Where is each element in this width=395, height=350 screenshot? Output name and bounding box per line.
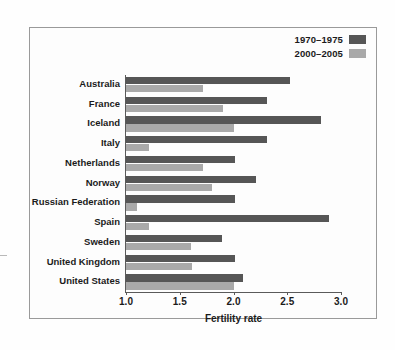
category-label: Netherlands bbox=[65, 156, 120, 170]
legend-item: 1970–1975 bbox=[295, 34, 366, 45]
x-tick-label: 2.0 bbox=[227, 296, 241, 307]
legend-swatch bbox=[349, 35, 366, 44]
bar-group: Spain bbox=[126, 213, 341, 233]
bar-group: France bbox=[126, 95, 341, 115]
x-axis-title: Fertility rate bbox=[205, 313, 262, 324]
bar-series2 bbox=[126, 184, 212, 191]
bar-series2 bbox=[126, 164, 203, 171]
bar-group: Norway bbox=[126, 174, 341, 194]
x-tick-mark bbox=[341, 292, 342, 295]
legend-label: 2000–2005 bbox=[295, 48, 343, 59]
bar-group: United States bbox=[126, 272, 341, 292]
x-tick-label: 3.0 bbox=[334, 296, 348, 307]
category-label: Italy bbox=[101, 136, 120, 150]
bar-series2 bbox=[126, 243, 191, 250]
category-label: Norway bbox=[86, 176, 120, 190]
legend-label: 1970–1975 bbox=[295, 34, 343, 45]
bar-series1 bbox=[126, 195, 235, 202]
bar-series2 bbox=[126, 105, 223, 112]
bar-series1 bbox=[126, 77, 290, 84]
bar-group: United Kingdom bbox=[126, 253, 341, 273]
x-tick-mark bbox=[126, 292, 127, 295]
bar-series1 bbox=[126, 235, 222, 242]
bar-group: Sweden bbox=[126, 233, 341, 253]
category-label: France bbox=[89, 97, 120, 111]
bar-series1 bbox=[126, 97, 267, 104]
x-tick-mark bbox=[234, 292, 235, 295]
legend-item: 2000–2005 bbox=[295, 48, 366, 59]
figure-canvas: 1970–19752000–2005 AustraliaFranceIcelan… bbox=[0, 0, 395, 350]
bar-group: Russian Federation bbox=[126, 193, 341, 213]
x-tick-label: 2.5 bbox=[280, 296, 294, 307]
category-label: Sweden bbox=[84, 235, 120, 249]
category-label: Spain bbox=[94, 215, 120, 229]
legend-swatch bbox=[349, 49, 366, 58]
x-tick-mark bbox=[180, 292, 181, 295]
chart-legend: 1970–19752000–2005 bbox=[295, 34, 366, 59]
bar-group: Iceland bbox=[126, 114, 341, 134]
page-edge-mark bbox=[0, 255, 7, 256]
bar-series2 bbox=[126, 263, 192, 270]
plot-area: AustraliaFranceIcelandItalyNetherlandsNo… bbox=[126, 75, 341, 292]
bar-series2 bbox=[126, 85, 203, 92]
bar-series1 bbox=[126, 274, 243, 281]
x-tick-mark bbox=[287, 292, 288, 295]
bar-series1 bbox=[126, 215, 329, 222]
x-tick-label: 1.5 bbox=[173, 296, 187, 307]
bar-series2 bbox=[126, 223, 149, 230]
bar-series2 bbox=[126, 282, 234, 289]
plot-inner: 1970–19752000–2005 AustraliaFranceIcelan… bbox=[30, 28, 376, 318]
bar-series1 bbox=[126, 156, 235, 163]
category-label: United Kingdom bbox=[47, 255, 120, 269]
category-label: Iceland bbox=[87, 116, 120, 130]
bar-group: Australia bbox=[126, 75, 341, 95]
bar-series1 bbox=[126, 255, 235, 262]
bar-series2 bbox=[126, 124, 234, 131]
x-tick-label: 1.0 bbox=[119, 296, 133, 307]
bar-series2 bbox=[126, 203, 137, 210]
chart-frame: 1970–19752000–2005 AustraliaFranceIcelan… bbox=[29, 27, 377, 319]
category-label: Australia bbox=[79, 77, 120, 91]
category-label: Russian Federation bbox=[32, 195, 120, 209]
bar-series1 bbox=[126, 176, 256, 183]
bar-group: Italy bbox=[126, 134, 341, 154]
bar-group: Netherlands bbox=[126, 154, 341, 174]
bar-series1 bbox=[126, 116, 321, 123]
bar-series1 bbox=[126, 136, 267, 143]
category-label: United States bbox=[59, 274, 120, 288]
bar-series2 bbox=[126, 144, 149, 151]
